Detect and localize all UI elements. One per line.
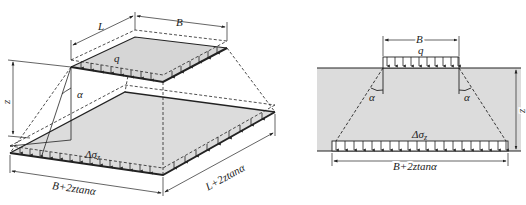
label-L: L [97, 20, 104, 32]
isometric-view: L B q z α Δσz B+2ztanα L+2ztanα [0, 12, 275, 197]
label-bottom-width-right: B+2ztanα [393, 160, 437, 172]
label-z: z [0, 99, 12, 105]
label-alpha-right: α [464, 91, 470, 103]
label-alpha-left: α [369, 91, 375, 103]
cross-section-view: B q α α z Δσz B+2ztanα [317, 33, 526, 172]
label-bottom-width: B+2ztanα [52, 179, 97, 197]
label-alpha: α [77, 88, 83, 100]
label-B: B [176, 16, 183, 28]
label-bottom-length: L+2ztanα [202, 161, 247, 193]
stress-distribution-diagram: L B q z α Δσz B+2ztanα L+2ztanα [0, 0, 526, 205]
label-q: q [114, 52, 120, 64]
label-q-right: q [418, 44, 424, 56]
label-z-right: z [515, 108, 526, 114]
